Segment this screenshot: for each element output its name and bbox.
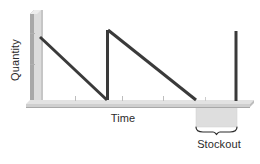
stockout-brace (196, 127, 237, 135)
x-axis-label: Time (96, 112, 150, 124)
y-axis-bar (30, 10, 43, 104)
inventory-level-line (40, 30, 236, 101)
x-axis-bar (26, 100, 254, 108)
inventory-sawtooth-chart: Quantity Time Stockout (0, 0, 260, 164)
y-axis-label: Quantity (7, 25, 23, 95)
stockout-annotation-label: Stockout (186, 138, 252, 150)
